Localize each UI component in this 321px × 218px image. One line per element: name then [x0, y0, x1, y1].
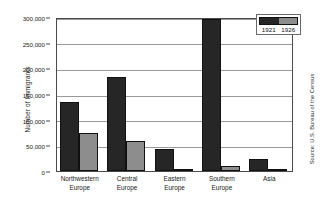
legend: 1921 1926: [256, 14, 301, 35]
x-axis-labels: NorthwesternEuropeCentralEuropeEasternEu…: [56, 175, 293, 215]
legend-swatch-1921: [260, 18, 279, 24]
bar-4-1921: [249, 159, 268, 171]
x-tick-label-line: Europe: [151, 184, 198, 193]
plot-area: [56, 18, 293, 172]
y-tick-mark: [46, 146, 50, 147]
y-tick-label: 150,000: [23, 92, 45, 99]
gridline: [57, 70, 292, 71]
source-note: Source: U.S. Bureau of the Census: [309, 44, 315, 194]
legend-label-1926: 1926: [279, 26, 299, 33]
y-tick-label: 50,000: [26, 143, 45, 150]
x-tick-label: Asia: [246, 175, 293, 184]
x-tick-label-line: Europe: [198, 184, 245, 193]
bar-4-1926: [268, 169, 287, 171]
bar-3-1921: [202, 19, 221, 171]
immigration-bar-chart: Number of Immigrants Source: U.S. Bureau…: [0, 0, 321, 218]
x-tick-label-line: Central: [103, 175, 150, 184]
bar-2-1926: [174, 169, 193, 171]
bar-3-1926: [221, 166, 240, 171]
y-tick-mark: [46, 18, 50, 19]
x-tick-label: CentralEurope: [103, 175, 150, 192]
legend-labels: 1921 1926: [259, 26, 298, 33]
legend-swatches: [259, 17, 298, 25]
x-tick-label-line: Asia: [246, 175, 293, 184]
legend-swatch-1926: [279, 18, 298, 24]
x-tick-label: EasternEurope: [151, 175, 198, 192]
x-tick-label-line: Northwestern: [56, 175, 103, 184]
y-axis-ticks: 050,000100,000150,000200,000250,000300,0…: [0, 18, 52, 172]
y-tick-label: 200,000: [23, 66, 45, 73]
bar-2-1921: [155, 149, 174, 171]
x-tick-label-line: Europe: [103, 184, 150, 193]
legend-label-1921: 1921: [259, 26, 279, 33]
x-tick-label: NorthwesternEurope: [56, 175, 103, 192]
bar-0-1926: [79, 133, 98, 171]
y-tick-label: 100,000: [23, 117, 45, 124]
gridline: [57, 121, 292, 122]
y-tick-label: 0: [42, 169, 45, 176]
y-tick-mark: [46, 43, 50, 44]
bar-1-1926: [126, 141, 145, 171]
y-tick-mark: [46, 120, 50, 121]
x-tick-label-line: Eastern: [151, 175, 198, 184]
bar-0-1921: [60, 102, 79, 171]
y-tick-mark: [46, 172, 50, 173]
y-tick-mark: [46, 95, 50, 96]
bar-1-1921: [107, 77, 126, 171]
y-tick-mark: [46, 69, 50, 70]
gridline: [57, 96, 292, 97]
x-tick-label-line: Southern: [198, 175, 245, 184]
gridline: [57, 44, 292, 45]
y-tick-label: 250,000: [23, 40, 45, 47]
x-tick-label-line: Europe: [56, 184, 103, 193]
y-tick-label: 300,000: [23, 15, 45, 22]
x-tick-label: SouthernEurope: [198, 175, 245, 192]
